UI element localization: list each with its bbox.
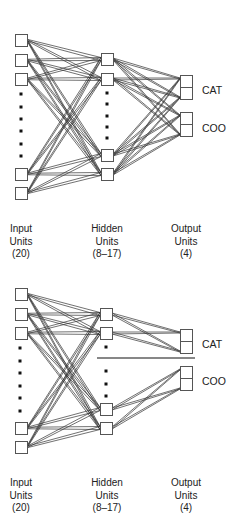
ellipsis-dot (20, 118, 23, 121)
output-label-cat: CAT (202, 84, 223, 96)
ellipsis-dot (19, 372, 22, 375)
ellipsis-dot (105, 395, 108, 398)
hidden-unit-box (102, 74, 114, 86)
output-units-label: Units (175, 236, 198, 247)
output-unit-box (181, 342, 193, 354)
network-diagram-fully-connected: CATCOOInputUnits(20)HiddenUnits(8–17)Out… (10, 35, 226, 260)
ellipsis-dot (106, 137, 109, 140)
hidden-units-label: (8–17) (93, 248, 122, 259)
input-unit-box (16, 328, 28, 340)
input-unit-box (16, 169, 28, 181)
hidden-units-label: Units (96, 490, 119, 501)
ellipsis-dot (19, 385, 22, 388)
input-units-label: Units (10, 236, 33, 247)
ellipsis-dot (106, 103, 109, 106)
hidden-unit-box (101, 423, 113, 435)
hidden-units-label: (8–17) (93, 502, 122, 513)
ellipsis-dot (105, 346, 108, 349)
hidden-units-label: Hidden (91, 477, 123, 488)
hidden-unit-box (102, 169, 114, 181)
input-unit-box (16, 74, 28, 86)
input-unit-box (16, 55, 28, 67)
output-unit-box (181, 88, 193, 100)
hidden-unit-box (101, 328, 113, 340)
ellipsis-dot (105, 383, 108, 386)
ellipsis-dot (105, 370, 108, 373)
output-label-coo: COO (202, 375, 226, 387)
ellipsis-dot (106, 115, 109, 118)
ellipsis-dot (20, 93, 23, 96)
input-units-label: Units (10, 490, 33, 501)
hidden-unit-box (101, 404, 113, 416)
output-label-coo: COO (202, 122, 226, 134)
ellipsis-dot (19, 360, 22, 363)
input-units-label: Input (10, 477, 32, 488)
ellipsis-dot (19, 410, 22, 413)
output-units-label: (4) (180, 248, 192, 259)
output-unit-box (181, 330, 193, 342)
output-unit-box (181, 113, 193, 125)
output-unit-box (181, 367, 193, 379)
output-units-label: Output (171, 223, 201, 234)
ellipsis-dot (106, 126, 109, 129)
hidden-units-label: Units (96, 236, 119, 247)
output-units-label: (4) (180, 502, 192, 513)
input-units-label: Input (10, 223, 32, 234)
input-units-label: (20) (12, 502, 30, 513)
output-unit-box (181, 76, 193, 88)
hidden-unit-box (102, 54, 114, 66)
ellipsis-dot (20, 130, 23, 133)
ellipsis-dot (20, 143, 23, 146)
input-unit-box (16, 423, 28, 435)
input-units-label: (20) (12, 248, 30, 259)
input-unit-box (16, 35, 28, 47)
hidden-units-label: Hidden (91, 223, 123, 234)
input-unit-box (16, 442, 28, 454)
neural-network-diagrams: CATCOOInputUnits(20)HiddenUnits(8–17)Out… (0, 0, 235, 527)
ellipsis-dot (20, 155, 23, 158)
hidden-unit-box (102, 150, 114, 162)
output-unit-box (181, 379, 193, 391)
input-unit-box (16, 309, 28, 321)
input-unit-box (16, 289, 28, 301)
ellipsis-dot (20, 106, 23, 109)
output-units-label: Output (171, 477, 201, 488)
ellipsis-dot (19, 347, 22, 350)
ellipsis-dot (19, 397, 22, 400)
hidden-unit-box (101, 309, 113, 321)
network-diagram-split-hidden: CATCOOInputUnits(20)HiddenUnits(8–17)Out… (10, 289, 226, 514)
ellipsis-dot (106, 92, 109, 95)
output-unit-box (181, 125, 193, 137)
input-unit-box (16, 188, 28, 200)
output-units-label: Units (175, 490, 198, 501)
output-label-cat: CAT (202, 338, 223, 350)
